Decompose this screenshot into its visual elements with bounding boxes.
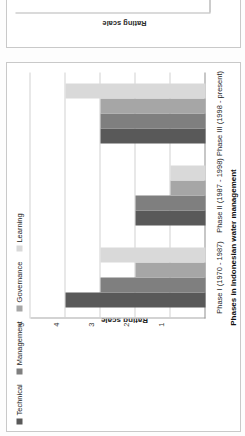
bar-management[interactable]	[100, 277, 205, 292]
bar-group	[30, 72, 205, 154]
legend-item-technical[interactable]: Technical	[14, 384, 23, 424]
bar-management[interactable]	[135, 195, 205, 210]
value-tick-label: 2	[122, 322, 131, 326]
legend-label: Governance	[14, 261, 23, 302]
legend-swatch-icon	[16, 418, 22, 424]
legend-label: Learning	[14, 213, 23, 242]
value-tick-label: 5	[17, 322, 26, 326]
category-label: Phase II (1987 - 1998)	[214, 158, 223, 233]
chart-legend: TechnicalManagementGovernanceLearning	[14, 213, 23, 424]
main-chart-frame: TechnicalManagementGovernanceLearning Ra…	[6, 62, 241, 432]
plot-area: 12345	[30, 72, 205, 318]
bar-governance[interactable]	[170, 180, 205, 195]
top-chart-y-axis-title: Rating scale	[101, 18, 145, 27]
legend-swatch-icon	[16, 305, 22, 311]
legend-swatch-icon	[16, 368, 22, 374]
bar-governance[interactable]	[100, 98, 205, 113]
bar-governance[interactable]	[135, 262, 205, 277]
legend-label: Management	[14, 321, 23, 365]
bar-group	[30, 236, 205, 318]
bar-technical[interactable]	[100, 128, 205, 143]
top-partial-chart: Rating scale 54321	[6, 0, 241, 48]
bar-technical[interactable]	[135, 210, 205, 225]
bar-learning[interactable]	[170, 165, 205, 180]
main-chart-rotated-content: TechnicalManagementGovernanceLearning Ra…	[8, 64, 239, 430]
bar-learning[interactable]	[65, 83, 205, 98]
category-axis-title: Phases in Indonesian water management	[228, 64, 237, 430]
value-tick-label: 1	[157, 322, 166, 326]
bar-management[interactable]	[100, 113, 205, 128]
legend-item-governance[interactable]: Governance	[14, 261, 23, 311]
top-chart-baseline	[209, 0, 210, 12]
category-label: Phase I (1970 - 1987)	[214, 241, 223, 314]
bar-learning[interactable]	[100, 247, 205, 262]
value-tick-label: 3	[87, 322, 96, 326]
value-tick-label: 4	[52, 322, 61, 326]
top-chart-rotated-content: Rating scale 54321	[7, 0, 240, 47]
category-label: Phase III (1998 - present)	[214, 70, 223, 155]
legend-item-management[interactable]: Management	[14, 321, 23, 374]
bar-group	[30, 154, 205, 236]
legend-swatch-icon	[16, 245, 22, 251]
scanned-page: Rating scale 54321 TechnicalManagementGo…	[0, 0, 245, 436]
legend-item-learning[interactable]: Learning	[14, 213, 23, 251]
bar-technical[interactable]	[65, 292, 205, 307]
legend-label: Technical	[14, 384, 23, 415]
top-chart-plot-area	[15, 0, 210, 13]
